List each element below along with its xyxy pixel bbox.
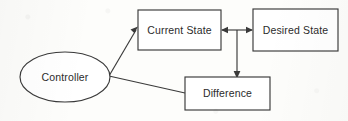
- difference-label: Difference: [203, 87, 252, 99]
- arrowhead-icon: [131, 27, 139, 34]
- node-desired-state[interactable]: Desired State: [253, 9, 338, 51]
- edge-line: [109, 30, 136, 76]
- arrowhead-icon: [221, 27, 228, 33]
- edge-controller-to-current-state: [109, 27, 138, 77]
- node-difference[interactable]: Difference: [185, 77, 270, 110]
- edge-difference-to-controller: [109, 76, 185, 93]
- control-loop-diagram: Controller Current State Desired State D…: [0, 0, 348, 121]
- current-state-label: Current State: [147, 24, 211, 36]
- arrowhead-icon: [246, 27, 253, 33]
- diagram-canvas: Controller Current State Desired State D…: [0, 0, 348, 121]
- node-current-state[interactable]: Current State: [138, 10, 221, 50]
- edge-line: [109, 76, 185, 93]
- node-controller[interactable]: Controller: [20, 52, 110, 102]
- edge-link-to-difference: [234, 30, 241, 79]
- controller-label: Controller: [41, 71, 88, 83]
- desired-state-label: Desired State: [263, 24, 329, 36]
